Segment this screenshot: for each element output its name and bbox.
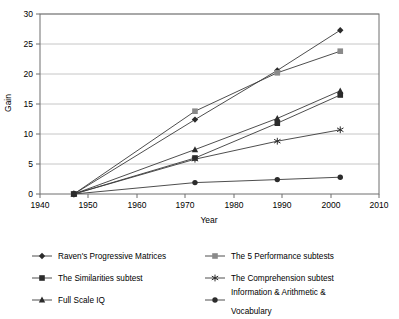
x-tick-label: 1990	[273, 200, 292, 210]
legend-label: Raven's Progressive Matrices	[58, 252, 166, 261]
square-marker	[192, 108, 198, 114]
x-tick-label: 1940	[31, 200, 50, 210]
x-tick-label: 2010	[370, 200, 389, 210]
circle-marker	[338, 175, 343, 180]
x-tick-label: 1970	[176, 200, 195, 210]
x-axis-title: Year	[200, 215, 217, 225]
circle-marker	[192, 180, 197, 185]
square-marker	[212, 253, 218, 259]
square-marker	[275, 120, 281, 126]
x-tick-label: 1950	[79, 200, 98, 210]
chart-background	[0, 0, 399, 319]
y-tick-label: 25	[24, 39, 34, 49]
legend-label: The 5 Performance subtests	[231, 252, 334, 261]
line-chart: Gain 0 5 10 15 20 25 30	[0, 0, 399, 319]
legend-label: Information & Arithmetic &	[231, 288, 326, 297]
y-tick-label: 20	[24, 69, 34, 79]
legend-label: The Similarities subtest	[58, 274, 143, 283]
square-marker	[39, 275, 45, 281]
legend-label: Vocabulary	[231, 307, 272, 316]
y-tick-label: 30	[24, 9, 34, 19]
y-tick-label: 0	[28, 189, 33, 199]
y-axis-title: Gain	[3, 94, 13, 112]
y-tick-label: 10	[24, 129, 34, 139]
y-tick-label: 5	[28, 159, 33, 169]
legend-label: Full Scale IQ	[58, 296, 105, 305]
square-marker	[337, 48, 343, 54]
x-tick-label: 1980	[225, 200, 244, 210]
circle-marker	[212, 297, 217, 302]
legend-label: The Comprehension subtest	[231, 274, 335, 283]
y-tick-label: 15	[24, 99, 34, 109]
circle-marker	[275, 177, 280, 182]
chart-container: Gain 0 5 10 15 20 25 30	[0, 0, 399, 319]
x-tick-label: 1960	[128, 200, 147, 210]
x-tick-label: 2000	[322, 200, 341, 210]
circle-marker	[71, 191, 76, 196]
square-marker	[275, 70, 281, 76]
